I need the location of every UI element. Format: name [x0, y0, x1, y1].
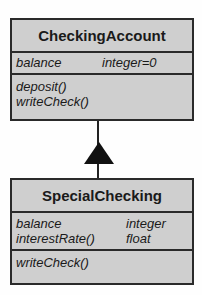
class-special-checking: SpecialChecking balance integer interest…: [10, 178, 194, 285]
class-checking-account: CheckingAccount balance integer=0 deposi…: [10, 18, 194, 121]
attribute-name: balance: [16, 216, 126, 231]
operation: writeCheck(): [16, 255, 192, 270]
attributes-section: balance integer=0: [12, 51, 192, 73]
operation: writeCheck(): [16, 94, 192, 109]
generalization-arrow-icon: [82, 140, 116, 166]
operations-section: deposit() writeCheck(): [12, 73, 192, 109]
operations-section: writeCheck(): [12, 249, 192, 270]
class-name: SpecialChecking: [12, 180, 192, 211]
attributes-section: balance integer interestRate() float: [12, 211, 192, 249]
attribute-type: integer: [126, 216, 166, 231]
attribute-row: balance integer=0: [16, 53, 192, 73]
attribute-row: interestRate() float: [16, 231, 192, 246]
operation: deposit(): [16, 79, 192, 94]
attribute-type: integer=0: [102, 53, 157, 73]
attribute-row: balance integer: [16, 216, 192, 231]
attribute-type: float: [126, 231, 151, 246]
attribute-name: interestRate(): [16, 231, 126, 246]
class-name: CheckingAccount: [12, 20, 192, 51]
attribute-name: balance: [16, 53, 102, 73]
